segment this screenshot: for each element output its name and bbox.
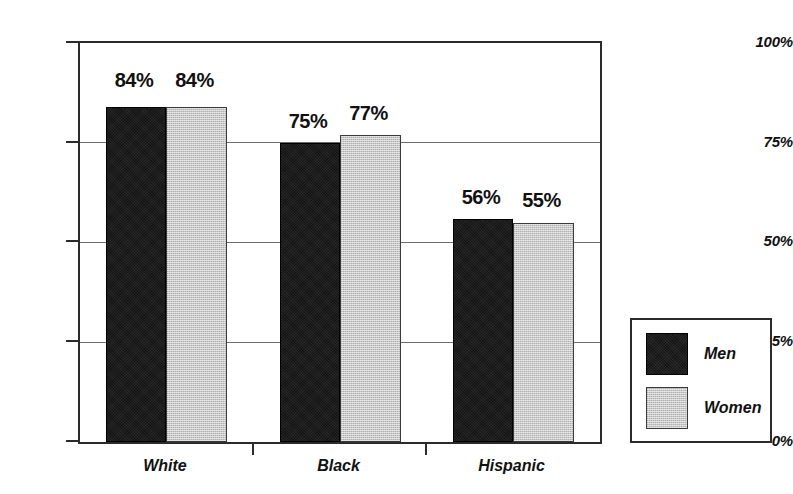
bar-hispanic-women <box>513 223 574 442</box>
legend: Men Women <box>630 318 772 443</box>
bar-hispanic-men <box>453 219 513 442</box>
x-category-label-black: Black <box>278 458 399 474</box>
bar-black-women <box>340 135 401 442</box>
grouped-bar-chart: 100% 75% 50% 25% 0% 84% 84% 75% 77% 56% … <box>0 0 793 494</box>
x-tick-mark-1 <box>252 442 254 455</box>
legend-item-men: Men <box>646 332 762 376</box>
value-label-black-men: 75% <box>278 111 338 131</box>
legend-item-women: Women <box>646 386 762 430</box>
legend-label-men: Men <box>704 346 736 362</box>
x-tick-mark-2 <box>425 442 427 455</box>
y-tick-mark-50 <box>66 240 78 242</box>
y-tick-mark-25 <box>66 340 78 342</box>
y-tick-mark-75 <box>66 141 78 143</box>
value-label-hispanic-women: 55% <box>511 190 572 210</box>
x-category-label-hispanic: Hispanic <box>451 458 572 474</box>
y-tick-mark-0 <box>66 440 78 442</box>
light-swatch-icon <box>646 387 688 429</box>
value-label-hispanic-men: 56% <box>451 187 511 207</box>
plot-area <box>78 41 602 444</box>
value-label-black-women: 77% <box>338 103 399 123</box>
value-label-white-women: 84% <box>164 70 225 90</box>
dark-swatch-icon <box>646 333 688 375</box>
y-tick-label-50: 50% <box>731 233 793 248</box>
bar-white-men <box>106 107 166 442</box>
legend-label-women: Women <box>704 400 761 416</box>
bar-white-women <box>166 107 227 442</box>
y-tick-mark-100 <box>66 41 78 43</box>
bar-black-men <box>280 143 340 442</box>
x-category-label-white: White <box>105 458 225 474</box>
y-tick-label-100: 100% <box>731 34 793 49</box>
value-label-white-men: 84% <box>104 70 164 90</box>
y-tick-label-75: 75% <box>731 134 793 149</box>
